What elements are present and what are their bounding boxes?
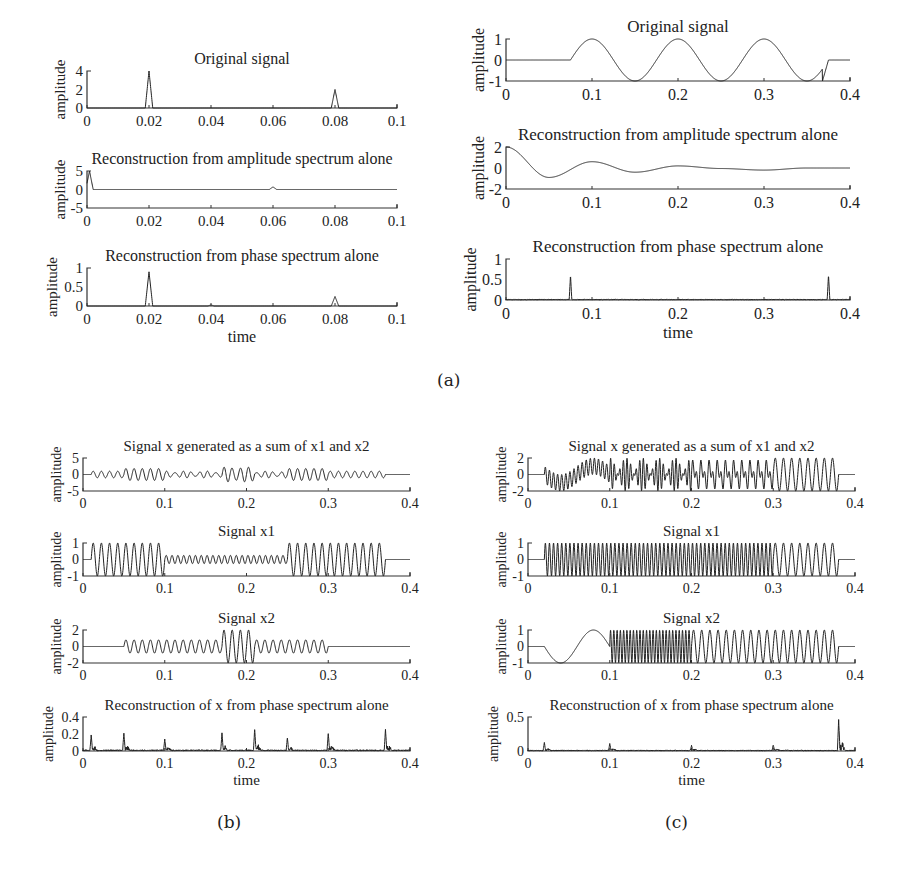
x-tick-label: 0 <box>502 305 510 322</box>
x-tick-label: 0.1 <box>601 496 619 511</box>
subplot-title: Signal x2 <box>218 610 275 626</box>
subplot-c-3: 00.10.20.30.4-101Signal x2amplitude <box>494 610 864 683</box>
x-tick-label: 0 <box>83 113 91 129</box>
y-axis-label: amplitude <box>494 619 509 675</box>
y-axis-label: amplitude <box>41 706 56 762</box>
x-tick-label: 0.1 <box>601 581 619 596</box>
x-tick-label: 0.4 <box>846 496 864 511</box>
x-tick-label: 0.2 <box>683 581 701 596</box>
y-tick-label: 2 <box>494 139 502 156</box>
x-tick-label: 0.3 <box>320 581 338 596</box>
x-tick-label: 0 <box>80 668 87 683</box>
data-line <box>83 543 410 576</box>
y-tick-label: 0.4 <box>62 710 80 725</box>
y-tick-label: -2 <box>489 181 502 198</box>
x-tick-label: 0.08 <box>322 113 348 129</box>
y-tick-label: -1 <box>512 569 524 584</box>
y-tick-label: 0 <box>76 182 84 198</box>
y-axis-label: amplitude <box>52 159 68 219</box>
subplot-b-2: 00.10.20.30.4-101Signal x1amplitude <box>49 523 419 596</box>
y-tick-label: 0 <box>76 298 84 314</box>
y-tick-label: 1 <box>517 536 524 551</box>
y-tick-label: 5 <box>72 451 79 466</box>
x-tick-label: 0.1 <box>601 668 619 683</box>
subplot-c-4: 00.10.20.30.400.5Reconstruction of x fro… <box>486 697 864 788</box>
y-axis-label: amplitude <box>462 248 480 312</box>
x-tick-label: 0.06 <box>260 311 287 327</box>
x-tick-label: 0.3 <box>320 496 338 511</box>
x-tick-label: 0.2 <box>668 86 688 103</box>
x-axis-label: time <box>228 328 256 345</box>
x-tick-label: 0.4 <box>401 668 419 683</box>
y-tick-label: -5 <box>67 484 79 499</box>
x-tick-label: 0.3 <box>765 668 783 683</box>
data-line <box>87 171 397 189</box>
y-tick-label: 0.5 <box>482 271 502 288</box>
x-tick-label: 0.3 <box>765 756 783 771</box>
data-line <box>506 277 850 300</box>
y-tick-label: 1 <box>72 536 79 551</box>
y-tick-label: 1 <box>494 251 502 268</box>
x-tick-label: 0 <box>525 668 532 683</box>
y-tick-label: 0.5 <box>507 710 525 725</box>
x-tick-label: 0.1 <box>156 581 174 596</box>
x-tick-label: 0.02 <box>136 311 162 327</box>
x-tick-label: 0.4 <box>840 86 860 103</box>
x-tick-label: 0 <box>525 496 532 511</box>
axes <box>87 268 397 306</box>
x-tick-label: 0.4 <box>846 756 864 771</box>
x-tick-label: 0.06 <box>260 213 287 229</box>
y-tick-label: 1 <box>517 623 524 638</box>
y-tick-label: 1 <box>494 31 502 48</box>
x-tick-label: 0.2 <box>238 756 256 771</box>
subplot-a-right-3: 00.10.20.30.400.51Reconstruction from ph… <box>462 237 860 342</box>
subplot-title: Reconstruction from phase spectrum alone <box>533 237 824 256</box>
x-tick-label: 0.2 <box>683 496 701 511</box>
y-tick-label: 0.5 <box>64 279 83 295</box>
y-tick-label: 0 <box>72 552 79 567</box>
subplot-c-1: 00.10.20.30.4-202Signal x generated as a… <box>494 438 864 511</box>
x-tick-label: 0.3 <box>320 756 338 771</box>
x-tick-label: 0.3 <box>320 668 338 683</box>
y-axis-label: amplitude <box>49 532 64 588</box>
data-line <box>528 630 855 663</box>
axes <box>83 717 410 751</box>
y-tick-label: 0 <box>72 744 79 759</box>
y-tick-label: 0.2 <box>62 727 80 742</box>
x-tick-label: 0.06 <box>260 113 287 129</box>
x-tick-label: 0.02 <box>136 113 162 129</box>
y-axis-label: amplitude <box>49 619 64 675</box>
x-tick-label: 0.1 <box>601 756 619 771</box>
data-line <box>528 720 855 751</box>
x-tick-label: 0.1 <box>156 756 174 771</box>
y-tick-label: 0 <box>72 467 79 482</box>
y-tick-label: -5 <box>71 200 84 216</box>
y-axis-label: amplitude <box>49 447 64 503</box>
x-tick-label: 0.1 <box>388 213 407 229</box>
data-line <box>528 543 855 576</box>
subplot-a-right-2: 00.10.20.30.4-202Reconstruction from amp… <box>470 125 860 211</box>
x-tick-label: 0.2 <box>668 194 688 211</box>
y-tick-label: 4 <box>76 63 84 79</box>
y-tick-label: 0 <box>494 160 502 177</box>
subplot-title: Signal x1 <box>218 523 275 539</box>
data-line <box>83 467 410 482</box>
x-tick-label: 0.1 <box>582 86 602 103</box>
subplot-title: Reconstruction from amplitude spectrum a… <box>91 150 392 168</box>
x-tick-label: 0.08 <box>322 213 348 229</box>
y-tick-label: 5 <box>76 163 84 179</box>
y-tick-label: 0 <box>494 52 502 69</box>
y-axis-label: amplitude <box>486 706 501 762</box>
x-tick-label: 0.2 <box>683 756 701 771</box>
x-tick-label: 0.1 <box>388 113 407 129</box>
subplot-c-2: 00.10.20.30.4-101Signal x1amplitude <box>494 523 864 596</box>
y-tick-label: -1 <box>489 73 502 90</box>
y-tick-label: 2 <box>517 451 524 466</box>
x-tick-label: 0 <box>83 311 91 327</box>
axes <box>506 259 850 300</box>
x-tick-label: 0.3 <box>765 496 783 511</box>
x-tick-label: 0 <box>525 756 532 771</box>
x-tick-label: 0.1 <box>156 496 174 511</box>
x-tick-label: 0 <box>502 194 510 211</box>
x-tick-label: 0.02 <box>136 213 162 229</box>
